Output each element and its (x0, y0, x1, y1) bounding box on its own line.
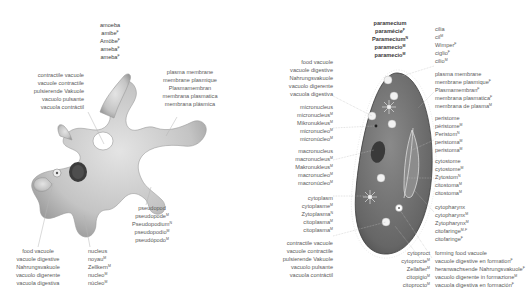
amoeba-pseudopod-label: pseudopod pseudopodeM PseudopodiumN pseu… (122, 205, 182, 245)
term: Zellafter (407, 266, 427, 272)
gender-mark: M (465, 212, 468, 216)
term: cilio (435, 58, 445, 64)
gender-mark: F (523, 266, 525, 270)
gender-mark: N (330, 211, 333, 215)
term: plasma membrane (167, 69, 213, 75)
gender-mark: M (427, 282, 430, 286)
term: nucleus (88, 248, 107, 254)
term: Nahrungsvakuole (289, 75, 333, 81)
term: micronucleo (300, 128, 330, 134)
gender-mark: F (118, 38, 120, 42)
gender-mark: M (403, 52, 406, 56)
term: vacuolo digerente (289, 83, 333, 89)
title-en: amoeba (100, 22, 120, 28)
gender-mark: M (460, 147, 463, 151)
paramecium-cytopharynx-label: cytopharynx cytopharynxM ZytopharynxM ci… (435, 204, 490, 244)
term: food vacuole (301, 59, 333, 65)
term: membrana plasmatica (162, 93, 217, 99)
term: peristoma (435, 139, 460, 145)
amoeba-title: amoeba amibeF AmöbeF amebaF amebaF (84, 22, 136, 62)
term: vacuola digestiva en formación (435, 282, 512, 288)
term: Plasmamembran (435, 87, 477, 93)
term: cytoproct (407, 250, 430, 256)
term: cytostome (435, 166, 461, 172)
term: vacuole contractile (38, 80, 84, 86)
term: peristoma (435, 147, 460, 153)
term: citostoma (435, 190, 459, 196)
gender-mark: M (330, 227, 333, 231)
term: citoplasma (303, 219, 330, 225)
term: Zytostom (435, 174, 458, 180)
paramecium-macronucleus-label: macronucleus macronucleusM MakronukleusM… (268, 148, 333, 188)
gender-mark: M-F (461, 228, 467, 232)
term: citoplasma (303, 227, 330, 233)
term: pseudopodio (135, 229, 167, 235)
term: Pseudopodium (132, 221, 169, 227)
gender-mark: M (108, 264, 111, 268)
term: Zytopharynx (435, 220, 466, 226)
gender-mark: M (427, 274, 430, 278)
term: citostoma (435, 182, 459, 188)
term: cytoplasme (302, 203, 330, 209)
paramecium-micronucleus-label: micronucleus micronucleusM MikronukleusM… (268, 104, 333, 144)
term: vacuolo pulsante (291, 264, 333, 270)
term: food vacuole (22, 248, 54, 254)
term: cytoprocte (401, 258, 427, 264)
term: cytostome (435, 158, 461, 164)
gender-mark: F (117, 54, 119, 58)
term: pseudópodo (135, 237, 166, 243)
paramecium-peristome-label: peristome péristomeM PeristomN peristoma… (435, 115, 485, 155)
gender-mark: M (166, 237, 169, 241)
gender-mark: N (405, 36, 408, 40)
amoeba-food-vacuole-label: food vacuole vacuole digestive Nahrungsv… (8, 248, 68, 288)
term: vacuole contractile (287, 248, 333, 254)
gender-mark: M (330, 120, 333, 124)
gender-mark: F (403, 28, 405, 32)
gender-mark: M (330, 136, 333, 140)
gender-mark: M (103, 256, 106, 260)
term: pseudopode (135, 213, 166, 219)
term: Wimper (435, 42, 454, 48)
gender-mark: M (460, 139, 463, 143)
term: pulsierende Vakuole (34, 88, 84, 94)
gender-mark: M (104, 272, 107, 276)
term: Zellkern (88, 264, 108, 270)
term: vacuole digestive (290, 67, 333, 73)
term: vacuola contráctil (41, 104, 84, 110)
term: noyau (88, 256, 103, 262)
term: ciglio (435, 50, 448, 56)
term: vacuolo digerente (16, 272, 60, 278)
gender-mark: M (330, 128, 333, 132)
gender-mark: M (427, 258, 430, 262)
term: vacuolo digerente in formazione (435, 274, 514, 280)
gender-mark: F (512, 282, 514, 286)
gender-mark: F (461, 236, 463, 240)
term: pseudopod (138, 205, 166, 211)
term: forming food vacuole (435, 250, 487, 256)
gender-mark: F (490, 95, 492, 99)
gender-mark: M (459, 182, 462, 186)
term: pulsierende Vakuole (283, 256, 333, 262)
term: contractile vacuole (287, 240, 333, 246)
gender-mark: M (445, 58, 448, 62)
term: citopigio (407, 274, 428, 280)
term: citofaringe (435, 228, 461, 234)
gender-mark: F (117, 30, 119, 34)
term: nucleo (88, 272, 104, 278)
paramecium-food-vacuole-label: food vacuole vacuole digestive Nahrungsv… (268, 59, 333, 99)
gender-mark: F (454, 42, 456, 46)
gender-mark: F (511, 258, 513, 262)
gender-mark: M (489, 103, 492, 107)
gender-mark: M (330, 219, 333, 223)
term: Peristom (435, 131, 457, 137)
gender-mark: M (330, 112, 333, 116)
title-fr: amibe (101, 30, 116, 36)
term: micronucleus (300, 104, 333, 110)
gender-mark: N (457, 131, 460, 135)
gender-mark: M (466, 220, 469, 224)
gender-mark: M (330, 164, 333, 168)
title-fr: paramécie (375, 28, 403, 34)
term: membrana plasmatica (435, 95, 490, 101)
paramecium-plasma-membrane-label: plasma membrane membrane plasmiqueF Plas… (435, 71, 527, 111)
title-en: paramecium (374, 20, 407, 26)
